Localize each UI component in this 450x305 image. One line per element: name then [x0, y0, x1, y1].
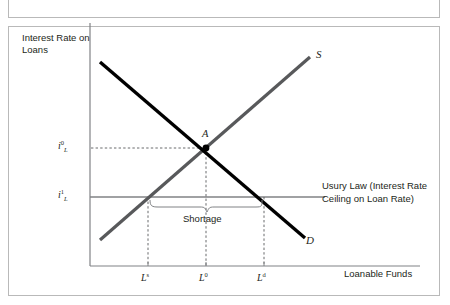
- y-axis-title: Interest Rate on Loans: [22, 32, 102, 55]
- demand-curve-label: D: [306, 234, 314, 247]
- x-tick-label-l0: L0: [199, 272, 208, 284]
- y-tick-i0-sub: L: [64, 146, 68, 153]
- x-tick-ls-sup: s: [147, 271, 150, 278]
- x-tick-label-ld: Ld: [257, 272, 266, 284]
- y-tick-i1-sup: 1: [61, 188, 64, 195]
- equilibrium-point-label: A: [202, 128, 208, 141]
- supply-curve-label: S: [316, 48, 322, 61]
- x-tick-ld-sup: d: [263, 271, 266, 278]
- y-tick-label-i1: i1L: [58, 189, 68, 201]
- y-tick-label-i0: i0L: [58, 140, 68, 152]
- y-tick-i1-sub: L: [64, 195, 68, 202]
- x-tick-l0-sup: 0: [205, 271, 208, 278]
- usury-law-note: Usury Law (Interest Rate Ceiling on Loan…: [322, 180, 444, 205]
- equilibrium-point-marker: [203, 145, 210, 152]
- y-tick-i0-sup: 0: [61, 139, 64, 146]
- x-axis-title: Loanable Funds: [344, 268, 412, 280]
- shortage-brace: [150, 200, 262, 212]
- x-tick-label-ls: Ls: [141, 272, 149, 284]
- shortage-label: Shortage: [183, 213, 222, 225]
- figure-page: Interest Rate on Loans Loanable Funds i0…: [0, 0, 450, 305]
